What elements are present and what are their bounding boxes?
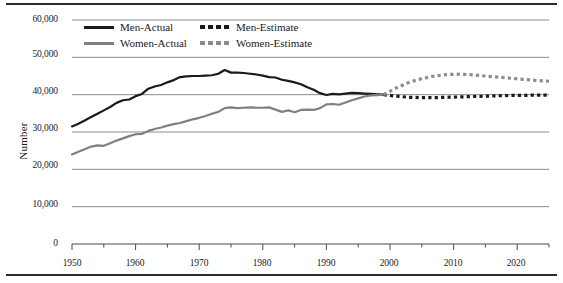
legend-label-women-actual: Women-Actual [120,38,187,49]
legend-label-men-estimate: Men-Estimate [236,22,298,33]
chart-legend: Men-Actual Men-Estimate Women-Actual Wom… [84,19,312,51]
legend-label-women-estimate: Women-Estimate [236,38,312,49]
x-axis-ticks [72,244,549,250]
series-women-actual [72,95,384,155]
legend-row-2: Women-Actual Women-Estimate [84,35,312,51]
chart-figure: Number 60,000 50,000 40,000 30,000 20,00… [0,0,563,283]
legend-row-1: Men-Actual Men-Estimate [84,19,312,35]
legend-entry-women-estimate: Women-Estimate [200,38,312,49]
legend-label-men-actual: Men-Actual [120,22,173,33]
legend-entry-men-estimate: Men-Estimate [200,22,298,33]
legend-swatch-women-actual [84,42,114,45]
legend-entry-women-actual: Women-Actual [84,38,200,49]
series-women-estimate [384,74,549,95]
series-men-actual [72,70,384,126]
series-lines [72,70,549,154]
legend-swatch-men-estimate [200,25,230,29]
legend-swatch-women-estimate [200,41,230,45]
legend-entry-men-actual: Men-Actual [84,22,200,33]
legend-swatch-men-actual [84,26,114,29]
